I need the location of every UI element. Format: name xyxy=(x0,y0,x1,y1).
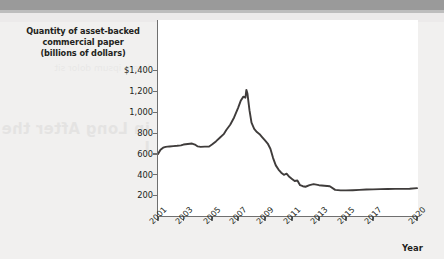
y-tick-1200 xyxy=(153,91,158,92)
y-tick-label-400: 400 xyxy=(99,170,153,180)
y-tick-label-800: 800 xyxy=(99,128,153,138)
series-line-asset-backed-commercial-paper xyxy=(158,90,417,191)
line-series-chart xyxy=(158,20,418,216)
y-tick-label-1400: $1,400 xyxy=(99,65,153,75)
y-tick-1400 xyxy=(153,70,158,71)
plot-clip xyxy=(158,20,418,216)
y-tick-label-200: 200 xyxy=(99,190,153,200)
y-tick-400 xyxy=(153,174,158,175)
y-tick-800 xyxy=(153,133,158,134)
y-axis-labels: 2004006008001,0001,200$1,400 xyxy=(95,0,153,259)
y-tick-200 xyxy=(153,195,158,196)
plot-area xyxy=(158,20,418,216)
y-tick-1000 xyxy=(153,112,158,113)
y-axis-line xyxy=(157,20,158,217)
y-tick-label-600: 600 xyxy=(99,149,153,159)
y-tick-label-1200: 1,200 xyxy=(99,86,153,96)
x-axis-title: Year xyxy=(402,243,423,253)
y-tick-label-1000: 1,000 xyxy=(99,107,153,117)
y-tick-600 xyxy=(153,153,158,154)
